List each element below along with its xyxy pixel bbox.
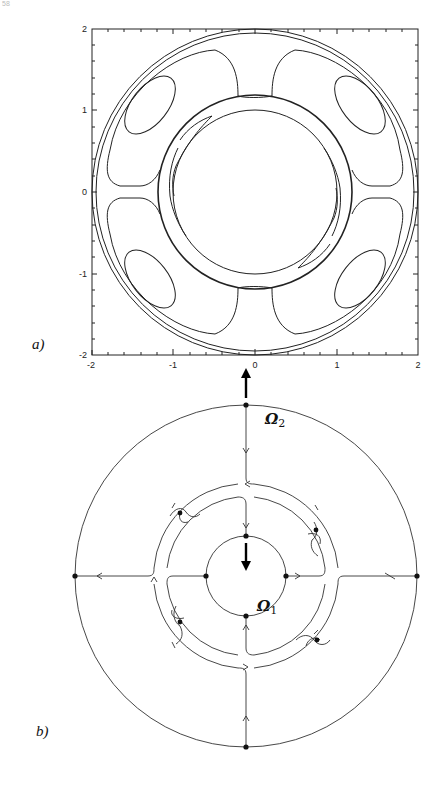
saddle-loop-nw <box>170 509 200 523</box>
separatrix-right <box>338 576 417 584</box>
vortex-cell-sw <box>115 241 185 317</box>
stagnation-point-outer-right <box>414 573 419 578</box>
y-tick-label: -1 <box>79 269 87 279</box>
cell-separatrix-contour <box>107 50 402 334</box>
panel-a <box>92 29 418 355</box>
stagnation-point-outer-top <box>243 402 248 407</box>
saddle-point-ne <box>314 528 319 533</box>
separatrix-left <box>75 568 154 576</box>
saddle-loop-se <box>296 636 330 647</box>
separatrix-bottom-inner <box>246 616 254 655</box>
jet-layer-contours <box>169 116 340 268</box>
x-tick-label: -1 <box>169 360 177 370</box>
saddle-point-sw <box>178 620 183 625</box>
figure: -2 -1 0 1 2 2 1 0 -1 -2 a) <box>0 0 442 785</box>
separatrix-left-inner <box>167 576 206 584</box>
vortex-cell-se <box>325 241 395 317</box>
omega2-label: Ω2 <box>264 410 285 430</box>
separatrix-top-inner <box>238 497 246 536</box>
saddle-loop-ne <box>308 522 320 556</box>
y-tick-label: 0 <box>82 187 87 197</box>
x-tick-label: 2 <box>415 360 420 370</box>
outer-boundary <box>92 29 418 355</box>
omega1-label: Ω1 <box>256 597 277 617</box>
y-tick-label: 1 <box>82 105 87 115</box>
saddle-point-se <box>315 638 320 643</box>
omega2-arrow <box>241 368 251 398</box>
stagnation-point-outer-left <box>72 573 77 578</box>
x-tick-label: -2 <box>87 360 95 370</box>
x-tick-label: 0 <box>252 360 257 370</box>
separatrix-top <box>246 405 254 484</box>
panel-b <box>75 405 417 747</box>
vortex-cell-nw <box>115 67 185 143</box>
outer-contour <box>96 33 414 351</box>
separatrix-right-inner <box>286 568 325 576</box>
plot-frame <box>92 29 418 355</box>
stagnation-point-inner-bottom <box>243 613 248 618</box>
separatrix-bottom <box>238 668 246 747</box>
panel-label-a: a) <box>32 336 45 353</box>
stagnation-point-inner-top <box>243 533 248 538</box>
y-tick-label: 2 <box>82 24 87 34</box>
saddle-point-nw <box>178 511 183 516</box>
inner-jet-boundary <box>158 95 352 289</box>
vortex-cell-ne <box>325 67 395 143</box>
y-tick-label: -2 <box>79 350 87 360</box>
stagnation-point-outer-bottom <box>243 744 248 749</box>
stagnation-point-inner-left <box>203 573 208 578</box>
stagnation-point-inner-right <box>283 573 288 578</box>
inner-sphere <box>173 110 337 274</box>
omega1-arrow <box>241 543 251 571</box>
x-tick-label: 1 <box>334 360 339 370</box>
panel-label-b: b) <box>36 723 49 740</box>
